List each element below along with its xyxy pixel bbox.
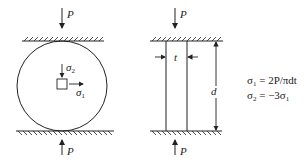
bottom-load-label-left: P	[67, 146, 74, 157]
bottom-load-label-right: P	[180, 146, 187, 157]
top-hatch-right	[152, 37, 221, 41]
top-hatch-left	[24, 37, 103, 41]
right-figure	[150, 8, 223, 155]
thickness-label: t	[174, 52, 177, 63]
disk	[17, 41, 107, 131]
equation-sigma2: σ2 = −3σ1	[247, 90, 289, 103]
top-load-label-left: P	[67, 9, 74, 20]
sigma2-label: σ2	[66, 62, 75, 75]
bottom-hatch-right	[152, 131, 221, 135]
stress-element	[57, 79, 67, 89]
left-figure	[16, 8, 114, 155]
bottom-hatch-left	[18, 131, 112, 135]
diameter-label: d	[211, 86, 217, 97]
equation-sigma1: σ1 = 2P/πdt	[247, 75, 297, 88]
top-load-label-right: P	[180, 9, 187, 20]
sigma1-label: σ1	[76, 87, 85, 100]
